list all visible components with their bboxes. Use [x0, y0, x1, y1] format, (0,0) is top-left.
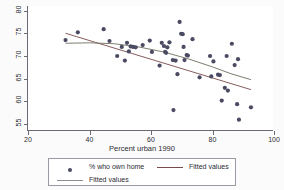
plot-svg	[28, 6, 274, 131]
y-tick-label: 70	[15, 47, 22, 63]
y-tick-label: 80	[15, 1, 22, 17]
data-point	[167, 40, 171, 44]
x-tick-label: 100	[263, 136, 284, 143]
data-point	[134, 45, 138, 49]
data-point	[127, 49, 131, 53]
data-point	[115, 54, 119, 58]
x-tick-label: 40	[79, 136, 101, 143]
x-tick-label: 60	[140, 136, 162, 143]
y-tick	[24, 79, 28, 80]
data-point	[218, 73, 222, 77]
data-point	[186, 53, 190, 57]
data-point	[190, 37, 194, 41]
data-point	[171, 108, 175, 112]
data-point	[230, 42, 234, 46]
data-point	[237, 118, 241, 122]
legend-label-fitted-1: Fitted values	[187, 163, 229, 170]
data-point	[181, 45, 185, 49]
data-point	[102, 27, 106, 31]
data-point	[236, 57, 240, 61]
y-tick-label: 60	[15, 92, 22, 108]
fitted-line	[66, 33, 251, 89]
data-point	[249, 105, 253, 109]
data-point	[220, 98, 224, 102]
data-point	[182, 58, 186, 62]
chart-root: 556065707580 20406080100 Percent urban 1…	[0, 0, 284, 190]
data-point	[141, 43, 145, 47]
data-point	[164, 51, 168, 55]
data-point	[174, 58, 178, 62]
data-point	[181, 32, 185, 36]
data-point	[208, 54, 212, 58]
x-tick	[213, 131, 214, 135]
data-point	[63, 38, 67, 42]
legend-label-fitted-2: Fitted values	[87, 176, 129, 183]
data-point	[226, 88, 230, 92]
data-point	[177, 20, 181, 24]
y-tick	[24, 101, 28, 102]
data-point	[123, 58, 127, 62]
x-tick	[28, 131, 29, 135]
y-tick-label: 65	[15, 69, 22, 85]
legend-item-fitted-1: Fitted values	[153, 160, 229, 173]
plot-area	[28, 6, 273, 130]
legend-label-points: % who own home	[87, 163, 144, 170]
y-tick	[24, 33, 28, 34]
x-tick-label: 20	[17, 136, 39, 143]
data-point	[175, 72, 179, 76]
data-point	[125, 41, 129, 45]
x-tick	[151, 131, 152, 135]
data-point	[165, 45, 169, 49]
x-axis-title: Percent urban 1990	[0, 144, 284, 153]
data-point	[76, 30, 80, 34]
x-tick-label: 80	[202, 136, 224, 143]
x-tick	[274, 131, 275, 135]
legend-row-2: Fitted values	[49, 173, 235, 186]
x-tick	[90, 131, 91, 135]
y-tick-label: 75	[15, 24, 22, 40]
data-point	[211, 59, 215, 63]
data-point	[120, 45, 124, 49]
plot-frame: 556065707580 20406080100	[27, 6, 273, 131]
data-point	[148, 38, 152, 42]
y-tick	[24, 124, 28, 125]
legend-line-grey-icon	[53, 171, 87, 189]
data-point	[233, 63, 237, 67]
y-tick	[24, 56, 28, 57]
data-point	[107, 39, 111, 43]
data-point	[197, 75, 201, 79]
data-point	[150, 50, 154, 54]
legend-item-fitted-2: Fitted values	[53, 173, 129, 186]
data-point	[209, 74, 213, 78]
chart-legend: % who own home Fitted values Fitted valu…	[48, 158, 236, 186]
data-point	[158, 63, 162, 67]
data-point	[235, 102, 239, 106]
y-tick	[24, 11, 28, 12]
y-tick-label: 55	[15, 115, 22, 131]
data-point	[225, 54, 229, 58]
